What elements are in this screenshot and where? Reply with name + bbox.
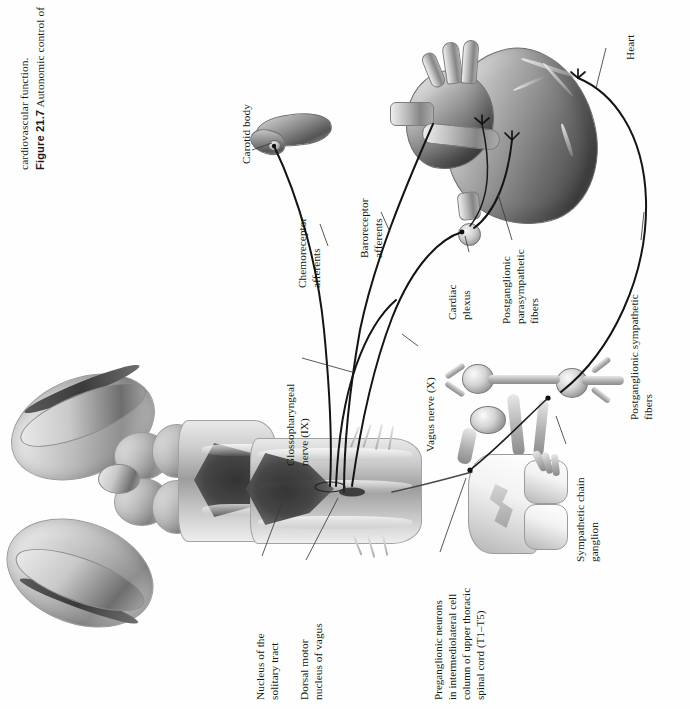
leader-preganglionic-neurons: [440, 478, 466, 552]
leader-heart: [596, 48, 606, 88]
label-baroreceptor-afferents-line1: Baroreceptor: [358, 198, 371, 258]
label-preganglionic-neurons-line4: spinal cord (T1–T5): [474, 610, 487, 700]
leader-postganglionic-parasympathetic: [498, 194, 512, 240]
preganglionic-sympathetic-fiber: [470, 398, 548, 470]
label-postganglionic-sympathetic-line1: Postganglionic sympathetic: [628, 294, 641, 420]
label-cardiac-plexus-line1: Cardiac: [446, 285, 459, 320]
pathway-overlay: [0, 0, 690, 709]
label-postganglionic-parasympathetic-line2: parasympathetic: [514, 249, 527, 324]
label-sympathetic-chain-ganglion-line2: ganglion: [588, 522, 601, 562]
leader-sympathetic-chain: [556, 416, 566, 444]
label-dorsal-motor-nucleus-line1: Dorsal motor: [298, 639, 311, 700]
figure-panel: Figure 21.7 Autonomic control of cardiov…: [0, 0, 690, 709]
label-preganglionic-neurons-line2: in intermediolateral cell: [446, 594, 459, 700]
vagus-efferent-pathway: [352, 232, 462, 486]
label-postganglionic-parasympathetic-line3: fibers: [528, 298, 541, 324]
leader-chemoreceptor: [320, 224, 328, 246]
label-postganglionic-parasympathetic-line1: Postganglionic: [500, 256, 513, 324]
label-preganglionic-neurons-line3: column of upper thoracic: [460, 588, 473, 700]
parasympathetic-branch-to-atrium: [470, 124, 488, 226]
leader-dorsal-motor-nucleus: [306, 498, 338, 560]
label-nucleus-solitary-tract-line1: Nucleus of the: [254, 633, 267, 700]
label-nucleus-solitary-tract-line2: solitary tract: [268, 643, 281, 700]
label-sympathetic-chain-ganglion-line1: Sympathetic chain: [574, 477, 587, 562]
label-baroreceptor-afferents-line2: afferents: [372, 218, 385, 258]
leader-vagus-nerve: [402, 334, 418, 346]
label-dorsal-motor-nucleus-line2: nucleus of vagus: [312, 623, 325, 700]
label-postganglionic-sympathetic-line2: fibers: [642, 394, 655, 420]
label-glossopharyngeal-nerve-line1: Glossopharyngeal: [284, 384, 297, 466]
label-heart: Heart: [624, 35, 637, 60]
label-vagus-nerve: Vagus nerve (X): [424, 377, 437, 452]
label-preganglionic-neurons-line1: Preganglionic neurons: [432, 600, 445, 700]
label-glossopharyngeal-nerve-line2: nerve (IX): [298, 418, 311, 466]
cardiac-nerve-terminals: [272, 69, 585, 234]
postganglionic-parasympathetic-pathway: [474, 140, 512, 228]
descending-bulbospinal-pathway: [392, 472, 472, 492]
leader-cardiac-plexus: [465, 236, 469, 252]
label-cardiac-plexus-line2: plexus: [460, 290, 473, 320]
label-chemoreceptor-afferents-line1: Chemoreceptor: [296, 218, 309, 288]
label-chemoreceptor-afferents-line2: afferents: [310, 248, 323, 288]
leader-carotid-body: [252, 143, 272, 150]
label-carotid-body: Carotid body: [240, 104, 253, 164]
leader-nucleus-solitary-tract: [262, 492, 286, 556]
